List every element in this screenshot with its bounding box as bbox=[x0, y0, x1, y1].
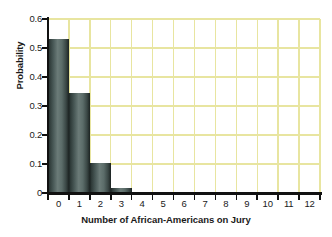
x-axis-title: Number of African-Americans on Jury bbox=[0, 214, 332, 225]
y-axis-tick-mark bbox=[42, 192, 47, 194]
y-axis-tick-mark bbox=[42, 18, 47, 20]
gridline-vertical bbox=[257, 19, 258, 193]
y-axis-tick-label: 0 bbox=[16, 188, 42, 198]
y-axis-tick-label: 0.6 bbox=[16, 14, 42, 24]
gridline-vertical bbox=[173, 19, 174, 193]
y-axis-tick-labels: 0.60.50.40.30.20.10 bbox=[14, 0, 42, 237]
y-axis-tick-label: 0.5 bbox=[16, 43, 42, 53]
y-axis-tick-mark bbox=[42, 163, 47, 165]
gridline-vertical bbox=[298, 19, 299, 193]
gridline-vertical bbox=[194, 19, 195, 193]
gridline-vertical bbox=[152, 19, 153, 193]
gridline-vertical bbox=[319, 19, 320, 193]
bar bbox=[69, 93, 90, 193]
probability-bar-chart: Probability 0.60.50.40.30.20.10 01234567… bbox=[0, 0, 332, 237]
x-axis-line bbox=[47, 192, 322, 194]
gridline-vertical bbox=[131, 19, 132, 193]
y-axis-tick-label: 0.4 bbox=[16, 72, 42, 82]
x-axis-tick-label: 12 bbox=[298, 198, 322, 209]
y-axis-tick-mark bbox=[42, 47, 47, 49]
y-axis-tick-label: 0.3 bbox=[16, 101, 42, 111]
gridline-vertical bbox=[277, 19, 278, 193]
bar bbox=[90, 163, 111, 193]
bar bbox=[48, 39, 69, 193]
y-axis-tick-label: 0.1 bbox=[16, 159, 42, 169]
gridline-vertical bbox=[215, 19, 216, 193]
y-axis-tick-mark bbox=[42, 134, 47, 136]
y-axis-tick-mark bbox=[42, 76, 47, 78]
y-axis-tick-mark bbox=[42, 105, 47, 107]
gridline-vertical bbox=[236, 19, 237, 193]
y-axis-tick-label: 0.2 bbox=[16, 130, 42, 140]
plot-area bbox=[48, 19, 320, 193]
